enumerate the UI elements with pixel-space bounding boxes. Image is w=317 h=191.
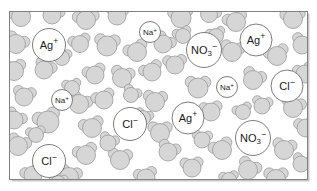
ion-cl-2: Cl−: [114, 108, 147, 141]
ion-na-1: Na+: [140, 22, 161, 43]
ionic-solution-figure: Ag+Na+NO3−Ag+Na+Na+Cl−Cl−Ag+NO3−Cl−: [0, 0, 317, 191]
ion-na-2: Na+: [52, 90, 73, 111]
ion-ag-2: Ag+: [240, 24, 272, 56]
ion-cl-3: Cl−: [33, 145, 66, 178]
ion-no3-1: NO3−: [187, 33, 222, 68]
ion-na-3: Na+: [217, 77, 238, 98]
ion-cl-1: Cl−: [271, 70, 303, 102]
ion-ag-1: Ag+: [33, 29, 66, 62]
ion-ag-3: Ag+: [172, 102, 204, 134]
ion-no3-2: NO3−: [236, 121, 271, 156]
solution-diagram: Ag+Na+NO3−Ag+Na+Na+Cl−Cl−Ag+NO3−Cl−: [0, 0, 317, 191]
water-molecule: [133, 166, 156, 187]
water-molecule: [264, 168, 288, 189]
water-molecule: [293, 33, 315, 54]
